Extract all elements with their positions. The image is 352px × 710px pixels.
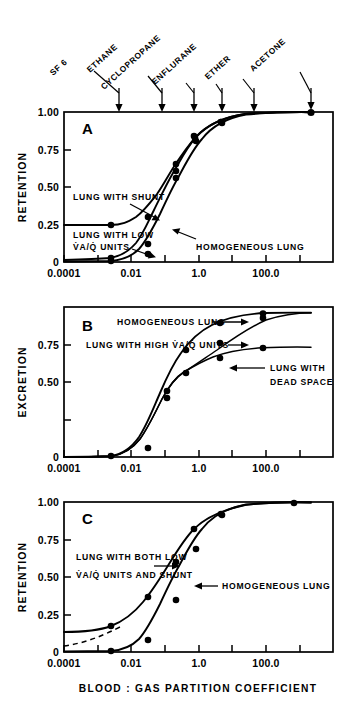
data-point bbox=[108, 453, 115, 460]
panel-b-xtick-label: 0.01 bbox=[120, 462, 141, 474]
retention-excretion-figure: SF 6 ETHANE CYCLOPROPANE ENFLURANE ETHER bbox=[0, 0, 352, 710]
data-point bbox=[145, 594, 152, 601]
panel-a-annot-lung-with-shunt: LUNG WITH SHUNT bbox=[73, 192, 165, 202]
panel-a-data-markers bbox=[108, 109, 315, 264]
data-point bbox=[219, 512, 226, 519]
data-point bbox=[145, 637, 152, 644]
gas-label-text: ACETONE bbox=[248, 36, 288, 73]
data-point bbox=[307, 109, 314, 116]
panel-c-y-axis-title: RETENTION bbox=[16, 542, 28, 613]
panel-c-letter: C bbox=[82, 510, 93, 527]
gas-arrow-head bbox=[190, 104, 197, 112]
gas-label-ether: ETHER bbox=[203, 53, 258, 112]
gas-leader-line bbox=[300, 72, 311, 93]
panel-c-annot-both-low-1: LUNG WITH BOTH LOW bbox=[76, 552, 187, 562]
panel-c-annot-both-low-2: V̇A/Q̇ UNITS AND SHUNT bbox=[76, 570, 193, 580]
panel-c-xtick-label: 100.0 bbox=[252, 657, 279, 669]
data-point bbox=[191, 526, 198, 533]
gas-label-group: SF 6 ETHANE CYCLOPROPANE ENFLURANE ETHER bbox=[48, 33, 315, 112]
panel-b-letter: B bbox=[82, 317, 93, 334]
panel-b-annot-arrow-head bbox=[229, 364, 237, 371]
panel-a-annot-arrow-head bbox=[172, 228, 180, 234]
data-point bbox=[260, 315, 267, 322]
panel-a-annot-low-va-q-1: LUNG WITH LOW bbox=[73, 230, 154, 240]
data-point bbox=[173, 168, 180, 175]
panel-a-ytick-2: 0.75 bbox=[38, 144, 59, 156]
panel-a-letter: A bbox=[82, 120, 93, 137]
panel-c-ytick-3: 0.50 bbox=[38, 571, 59, 583]
panel-a-xtick-label: 1.0 bbox=[191, 267, 206, 279]
data-point bbox=[291, 500, 298, 507]
panel-c-xtick-label: 1.0 bbox=[191, 657, 206, 669]
panel-c-xtick-label: 0.0001 bbox=[47, 657, 80, 669]
panel-a-annot-homogeneous-lung: HOMOGENEOUS LUNG bbox=[196, 242, 304, 252]
panel-c-ytick-1: 1.00 bbox=[38, 496, 59, 508]
data-point bbox=[108, 258, 115, 265]
gas-leader-line bbox=[216, 84, 222, 93]
data-point bbox=[193, 138, 200, 145]
panel-b-xtick-label: 1.0 bbox=[191, 462, 206, 474]
panel-a-curve-lung-with-shunt bbox=[64, 112, 311, 225]
data-point bbox=[183, 370, 190, 377]
data-point bbox=[260, 345, 267, 352]
panel-c-ytick-4: 0.25 bbox=[38, 609, 59, 621]
gas-arrow-head bbox=[218, 104, 225, 112]
panel-a-annot-leader bbox=[130, 204, 156, 218]
panel-b-annot-dead-space-2: DEAD SPACE bbox=[270, 377, 333, 387]
data-point bbox=[217, 355, 224, 362]
panel-b-xtick-label: 100.0 bbox=[252, 462, 279, 474]
data-point bbox=[173, 161, 180, 168]
gas-leader-line bbox=[186, 83, 194, 93]
panel-b-ytick-1: 0.75 bbox=[38, 339, 59, 351]
panel-c-curve-low-va-q-and-shunt bbox=[64, 502, 311, 632]
panel-b-y-axis-title: EXCRETION bbox=[16, 346, 28, 417]
panel-a-ytick-1: 1.00 bbox=[38, 106, 59, 118]
panel-b-ytick-2: 0.50 bbox=[38, 376, 59, 388]
data-point bbox=[173, 175, 180, 182]
panel-b-annot-high-va-q: LUNG WITH HIGH V̇A/Q̇ UNITS bbox=[86, 340, 229, 350]
panel-b-annot-dead-space-1: LUNG WITH bbox=[270, 363, 325, 373]
panel-c-annot-homogeneous-lung: HOMOGENEOUS LUNG bbox=[222, 581, 330, 591]
panel-a-xtick-label: 100.0 bbox=[252, 267, 279, 279]
figure-root: SF 6 ETHANE CYCLOPROPANE ENFLURANE ETHER bbox=[0, 0, 352, 710]
data-point bbox=[108, 222, 115, 229]
gas-label-text: SF 6 bbox=[48, 57, 69, 78]
gas-label-text: ENFLURANE bbox=[150, 41, 199, 86]
data-point bbox=[219, 120, 226, 127]
panel-b-annot-homogeneous-lung: HOMOGENEOUS LUNG bbox=[117, 317, 225, 327]
panel-a-ytick-4: 0.25 bbox=[38, 219, 59, 231]
panel-b-annot-arrow-head bbox=[241, 341, 249, 348]
data-point bbox=[145, 445, 152, 452]
gas-arrow-head bbox=[307, 102, 314, 110]
gas-arrow-head bbox=[158, 104, 165, 112]
gas-label-acetone: ACETONE bbox=[248, 36, 315, 110]
panel-a: RETENTION A 1.00 0.75 0.50 0.25 0 0.0001… bbox=[16, 106, 333, 279]
panel-c-ytick-2: 0.75 bbox=[38, 534, 59, 546]
data-point bbox=[164, 388, 171, 395]
gas-label-text: ETHER bbox=[203, 53, 233, 81]
gas-arrow-head bbox=[115, 104, 122, 112]
figure-x-axis-title: BLOOD : GAS PARTITION COEFFICIENT bbox=[79, 683, 318, 694]
panel-b-annot-arrow-head bbox=[241, 318, 249, 325]
data-point bbox=[108, 648, 115, 655]
panel-a-xtick-label: 0.01 bbox=[120, 267, 141, 279]
gas-leader-line bbox=[243, 79, 254, 93]
panel-c-curve-dashed-extrapolation bbox=[64, 626, 122, 646]
data-point bbox=[193, 546, 200, 553]
panel-b-xtick-label: 0.0001 bbox=[47, 462, 80, 474]
panel-c: RETENTION C 1.00 0.75 0.50 0.25 0 0.0001… bbox=[16, 496, 333, 694]
panel-a-ytick-3: 0.50 bbox=[38, 181, 59, 193]
panel-c-xtick-label: 0.01 bbox=[120, 657, 141, 669]
data-point bbox=[164, 395, 171, 402]
panel-a-annot-low-va-q-2: V̇A/Q̇ UNITS bbox=[73, 242, 130, 252]
panel-a-annot-leader bbox=[176, 231, 196, 239]
gas-arrow-head bbox=[250, 104, 257, 112]
panel-c-annot-arrow-head bbox=[194, 582, 202, 589]
data-point bbox=[145, 241, 152, 248]
panel-a-xtick-label: 0.0001 bbox=[47, 267, 80, 279]
data-point bbox=[173, 597, 180, 604]
panel-b: EXCRETION B 0.75 0.50 0 0.0001 0.01 1.0 … bbox=[16, 307, 333, 474]
data-point bbox=[108, 623, 115, 630]
panel-a-y-axis-title: RETENTION bbox=[16, 152, 28, 223]
